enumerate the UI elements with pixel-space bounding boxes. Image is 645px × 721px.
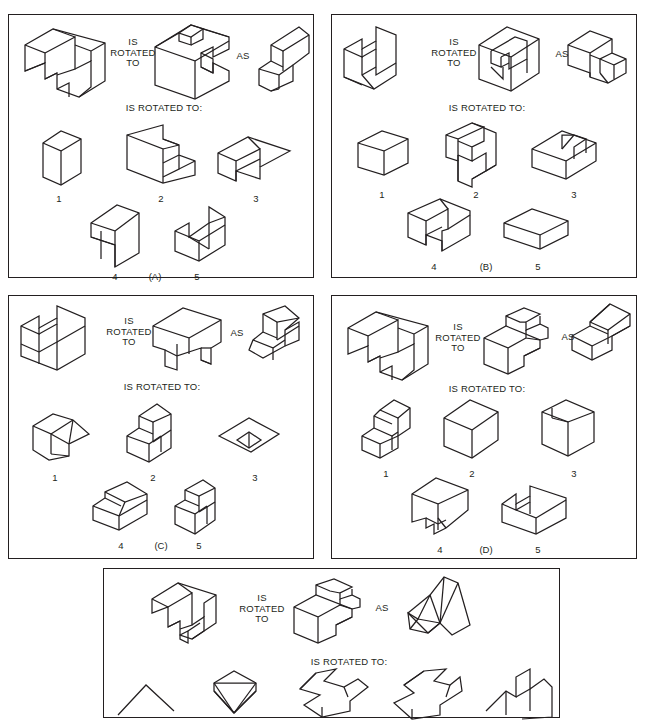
panel-d: IS ROTATED TO AS bbox=[331, 295, 637, 559]
figure-c-choice-5 bbox=[171, 476, 221, 542]
figure-a-choice-3 bbox=[214, 133, 294, 185]
label-as-e: AS bbox=[368, 603, 396, 614]
panel-caption-d: (D) bbox=[466, 544, 506, 555]
label-is-rotated-to-row-a: IS ROTATED TO: bbox=[99, 103, 229, 114]
choice-number-a2: 2 bbox=[151, 193, 171, 204]
label-is-rotated-to-row-b: IS ROTATED TO: bbox=[422, 103, 552, 114]
figure-e-stimulus-3 bbox=[396, 573, 476, 649]
figure-d-choice-1 bbox=[354, 396, 416, 464]
panel-caption-c: (C) bbox=[141, 540, 181, 551]
figure-c-stimulus-2 bbox=[149, 304, 227, 374]
label-is-rotated-to-row-d: IS ROTATED TO: bbox=[422, 384, 552, 395]
figure-a-stimulus-3 bbox=[253, 23, 313, 95]
choice-number-c1: 1 bbox=[45, 472, 65, 483]
panel-a-stage: IS ROTATED TO AS bbox=[9, 15, 313, 277]
panel-d-stage: IS ROTATED TO AS bbox=[332, 296, 636, 558]
choice-number-d4: 4 bbox=[430, 544, 450, 555]
figure-c-choice-2 bbox=[121, 400, 177, 470]
panel-e-stage: IS ROTATED TO AS bbox=[104, 569, 559, 717]
choice-number-a1: 1 bbox=[49, 193, 69, 204]
figure-e-stimulus-2 bbox=[290, 575, 366, 649]
choice-number-a3: 3 bbox=[246, 193, 266, 204]
choice-number-b1: 1 bbox=[372, 189, 392, 200]
figure-b-choice-4 bbox=[404, 195, 474, 259]
figure-d-stimulus-1 bbox=[342, 306, 434, 388]
choice-number-a5: 5 bbox=[187, 271, 207, 282]
choice-number-b3: 3 bbox=[564, 189, 584, 200]
figure-a-choice-5 bbox=[171, 203, 229, 269]
label-is-rotated-to-row-e: IS ROTATED TO: bbox=[284, 657, 414, 668]
figure-e-choice-2 bbox=[208, 669, 264, 721]
choice-number-b5: 5 bbox=[528, 261, 548, 272]
figure-e-choice-1 bbox=[116, 677, 182, 721]
figure-b-choice-5 bbox=[500, 205, 572, 253]
choice-number-c4: 4 bbox=[111, 540, 131, 551]
choice-number-b4: 4 bbox=[424, 261, 444, 272]
choice-number-c3: 3 bbox=[245, 472, 265, 483]
label-is-rotated-to-e: IS ROTATED TO bbox=[230, 593, 294, 625]
choice-number-c5: 5 bbox=[189, 540, 209, 551]
figure-a-stimulus-1 bbox=[19, 23, 111, 105]
figure-b-stimulus-3 bbox=[564, 27, 630, 91]
figure-a-choice-4 bbox=[87, 201, 143, 271]
choice-number-d3: 3 bbox=[564, 468, 584, 479]
figure-c-choice-4 bbox=[89, 478, 153, 540]
figure-d-choice-5 bbox=[498, 482, 570, 540]
figure-c-choice-1 bbox=[29, 410, 93, 464]
figure-b-choice-3 bbox=[528, 125, 600, 185]
figure-d-choice-2 bbox=[440, 396, 502, 464]
figure-c-stimulus-3 bbox=[243, 302, 305, 368]
figure-b-stimulus-2 bbox=[475, 21, 555, 97]
panel-caption-b: (B) bbox=[466, 261, 506, 272]
choice-number-d1: 1 bbox=[376, 468, 396, 479]
choice-number-d5: 5 bbox=[528, 544, 548, 555]
panel-caption-a: (A) bbox=[135, 271, 175, 282]
figure-a-choice-2 bbox=[123, 121, 199, 187]
panel-c: IS ROTATED TO AS bbox=[8, 295, 314, 559]
figure-d-choice-4 bbox=[408, 474, 476, 542]
figure-c-stimulus-1 bbox=[17, 302, 95, 380]
figure-a-choice-1 bbox=[39, 127, 85, 189]
figure-b-choice-2 bbox=[442, 119, 500, 191]
figure-b-choice-1 bbox=[354, 127, 412, 179]
panel-c-stage: IS ROTATED TO AS bbox=[9, 296, 313, 558]
figure-d-choice-3 bbox=[538, 396, 600, 464]
figure-e-choice-4 bbox=[388, 667, 466, 721]
panel-a: IS ROTATED TO AS bbox=[8, 14, 314, 278]
panel-b-stage: IS ROTATED TO AS bbox=[332, 15, 636, 277]
figure-e-stimulus-1 bbox=[148, 577, 222, 647]
figure-d-stimulus-3 bbox=[568, 300, 638, 372]
figure-b-stimulus-1 bbox=[340, 23, 422, 101]
panel-b: IS ROTATED TO AS bbox=[331, 14, 637, 278]
panel-e: IS ROTATED TO AS bbox=[103, 568, 560, 718]
figure-d-stimulus-2 bbox=[480, 304, 554, 380]
choice-number-a4: 4 bbox=[105, 271, 125, 282]
label-is-rotated-to-row-c: IS ROTATED TO: bbox=[97, 382, 227, 393]
figure-e-choice-3 bbox=[292, 667, 372, 721]
figure-e-choice-5 bbox=[482, 667, 558, 721]
figure-c-choice-3 bbox=[215, 414, 283, 458]
